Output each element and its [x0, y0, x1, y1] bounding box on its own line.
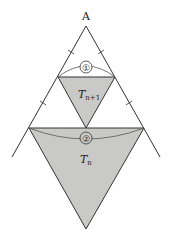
vertex-label-a: A [81, 10, 91, 23]
label-t-sub: n [87, 159, 92, 167]
label-t-sub: n+1 [85, 94, 100, 102]
arc-1-label: ① [82, 63, 90, 73]
arc-2-label: ② [82, 134, 90, 144]
triangle-t-n-plus-1 [58, 77, 115, 128]
geometry-diagram: A ① ② Tn+1 Tn [0, 0, 170, 244]
